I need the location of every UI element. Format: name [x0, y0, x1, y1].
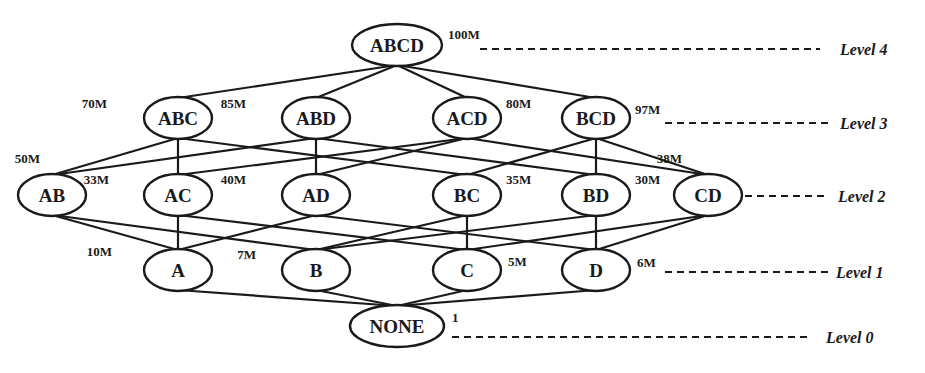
level-label: Level 0 — [825, 329, 874, 346]
cuboid-size: 100M — [448, 27, 480, 42]
edge-abcd-bcd — [397, 65, 596, 98]
cuboid-node-none: NONE1 — [350, 305, 459, 347]
cuboid-label: A — [171, 260, 185, 281]
cuboid-node-bc: BC35M — [433, 172, 531, 216]
edge-abc-ab — [52, 138, 178, 175]
cuboid-node-ab: AB50M — [15, 151, 86, 216]
cuboid-size: 38M — [657, 151, 682, 166]
cuboid-size: 80M — [506, 96, 531, 111]
cuboid-node-c: C5M — [433, 249, 527, 291]
edge-a-none — [178, 290, 397, 306]
cuboid-node-abd: ABD85M — [221, 96, 350, 139]
cuboid-node-abc: ABC70M — [82, 96, 212, 139]
cuboid-label: NONE — [370, 316, 425, 337]
cuboid-node-ad: AD40M — [221, 172, 350, 216]
cuboid-label: AB — [39, 185, 66, 206]
cuboid-label: ABD — [296, 108, 336, 129]
cuboid-node-ac: AC33M — [84, 172, 212, 216]
level-guide-lines — [452, 49, 830, 337]
cuboid-size: 30M — [635, 172, 660, 187]
level-label: Level 1 — [835, 264, 884, 281]
edge-abcd-abd — [316, 65, 397, 98]
edge-bcd-cd — [596, 138, 708, 175]
cuboid-node-b: B7M — [237, 247, 350, 291]
cuboid-node-cd: CD38M — [657, 151, 742, 216]
cuboid-size: 70M — [82, 96, 107, 111]
cuboid-size: 1 — [452, 310, 459, 325]
cuboid-node-acd: ACD80M — [433, 96, 531, 139]
cuboid-size: 97M — [635, 102, 660, 117]
cuboid-label: CD — [694, 185, 721, 206]
edge-bcd-bc — [467, 138, 596, 175]
cuboid-size: 6M — [637, 255, 656, 270]
edge-ab-a — [52, 215, 178, 250]
cuboid-label: ABCD — [370, 35, 424, 56]
cuboid-label: C — [460, 260, 474, 281]
cuboid-node-bd: BD30M — [562, 172, 660, 216]
edge-ac-c — [178, 215, 467, 250]
edge-abcd-abc — [178, 65, 397, 98]
cuboid-label: BD — [583, 185, 609, 206]
cuboid-size: 85M — [221, 96, 246, 111]
cuboid-label: BCD — [576, 108, 616, 129]
level-label: Level 2 — [837, 188, 886, 205]
cuboid-size: 40M — [221, 172, 246, 187]
edge-d-none — [397, 290, 596, 306]
cuboid-node-bcd: BCD97M — [562, 97, 660, 139]
edge-cd-d — [596, 215, 708, 250]
cuboid-size: 7M — [237, 247, 256, 262]
edge-ad-a — [178, 215, 316, 250]
cuboid-label: AC — [164, 185, 191, 206]
cuboid-label: BC — [454, 185, 480, 206]
level-label: Level 4 — [839, 41, 888, 58]
level-label: Level 3 — [839, 115, 888, 132]
cuboid-label: AD — [302, 185, 329, 206]
edge-acd-ad — [316, 138, 467, 175]
cuboid-size: 50M — [15, 151, 40, 166]
cuboid-node-a: A10M — [87, 244, 212, 291]
cuboid-node-abcd: ABCD100M — [352, 24, 480, 66]
edge-bc-b — [316, 215, 467, 250]
cuboid-lattice-diagram: ABCD100MABC70MABD85MACD80MBCD97MAB50MAC3… — [0, 0, 925, 373]
edge-abd-ab — [52, 138, 316, 175]
edge-abd-bd — [316, 138, 596, 175]
cuboid-node-d: D6M — [562, 249, 656, 291]
cuboid-size: 35M — [506, 172, 531, 187]
cuboid-label: B — [310, 260, 323, 281]
level-labels: Level 4Level 3Level 2Level 1Level 0 — [825, 41, 888, 346]
cuboid-size: 5M — [508, 254, 527, 269]
cuboid-label: ABC — [158, 108, 198, 129]
edge-cd-c — [467, 215, 708, 250]
lattice-canvas: ABCD100MABC70MABD85MACD80MBCD97MAB50MAC3… — [0, 0, 925, 373]
cuboid-label: D — [589, 260, 603, 281]
cuboid-size: 33M — [84, 172, 109, 187]
cuboid-label: ACD — [446, 108, 487, 129]
cuboid-size: 10M — [87, 244, 112, 259]
